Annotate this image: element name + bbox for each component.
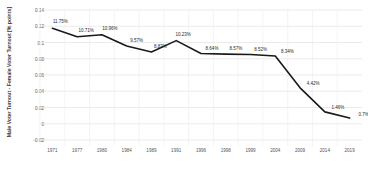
x-tick-label: 1996 — [196, 148, 206, 153]
data-point-label: 10.71% — [79, 27, 94, 32]
data-point-label: 10.96% — [102, 25, 117, 30]
data-point-label: 11.75% — [53, 19, 68, 24]
data-point-label: 4.42% — [307, 80, 320, 85]
x-tick-label: 1984 — [122, 148, 132, 153]
data-point-label: 8.52% — [254, 46, 267, 51]
x-tick-label: 1971 — [47, 148, 57, 153]
x-tick-label: 1999 — [245, 148, 255, 153]
x-tick-label: 2014 — [320, 148, 330, 153]
data-point-label: 8.57% — [229, 46, 242, 51]
x-tick-label: 1989 — [146, 148, 156, 153]
data-point-label: 10.23% — [176, 31, 191, 36]
x-tick-label: 2019 — [344, 148, 354, 153]
data-point-label: 1.46% — [331, 104, 344, 109]
chart-container: Male Voter Turnout - Female Voter Turnou… — [0, 0, 368, 172]
data-point-label: 8.64% — [206, 45, 219, 50]
x-tick-label: 1998 — [221, 148, 231, 153]
x-tick-label: 2004 — [270, 148, 280, 153]
x-tick-label: 1991 — [171, 148, 181, 153]
x-tick-label: 1980 — [97, 148, 107, 153]
x-axis-tick-labels: 1971197719801984198919911996199819992004… — [0, 0, 368, 172]
data-point-label: 9.57% — [130, 37, 143, 42]
x-tick-label: 1977 — [72, 148, 82, 153]
data-point-label: 0.7% — [358, 112, 368, 117]
data-point-label: 8.34% — [281, 48, 294, 53]
x-tick-label: 2009 — [295, 148, 305, 153]
data-point-label: 8.83% — [154, 44, 167, 49]
